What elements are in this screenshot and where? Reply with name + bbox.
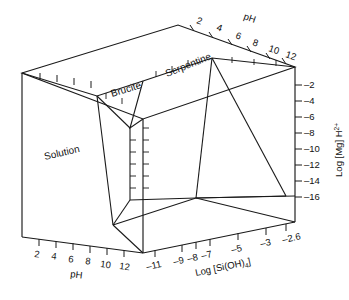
interior-axis-ticks — [130, 128, 149, 188]
silicic-tick-0: –11 — [145, 258, 162, 272]
mg-axis-label-group: Log [Mg] H2+ — [333, 123, 345, 177]
lower-plate-left — [113, 200, 130, 225]
ph-bottom-tick-2: 6 — [68, 253, 75, 265]
mg-tick-4: –10 — [304, 143, 320, 154]
lower-plate-to-bottom-right — [196, 198, 295, 222]
mg-tick-7: –16 — [304, 191, 320, 202]
phase-diagram-figure: 2 4 6 8 10 12 pH –2 –4 –6 –8 –10 –12 –14… — [0, 0, 349, 300]
mg-tick-3: –8 — [304, 127, 315, 138]
serpentine-right-edge — [212, 58, 286, 196]
ph-top-axis-label: pH — [242, 10, 257, 24]
mg-axis-ticks — [295, 85, 302, 197]
ph-bottom-axis-label: pH — [70, 268, 84, 280]
silicic-tick-4: –5 — [230, 242, 243, 255]
silicic-tick-3: –7 — [200, 248, 213, 261]
ph-bottom-tick-0: 2 — [34, 248, 41, 260]
mg-tick-1: –4 — [304, 95, 315, 106]
region-label-brucite: Brucite — [109, 79, 142, 99]
silicic-tick-5: –3 — [259, 236, 272, 249]
lower-plate-right-extension — [196, 196, 295, 198]
ph-bottom-tick-1: 4 — [51, 250, 58, 262]
mg-axis-label-sup: 2+ — [333, 123, 340, 131]
edge-bottom-left — [22, 237, 143, 253]
ph-top-tick-1: 4 — [215, 21, 224, 33]
region-label-serpentine: Serpentine — [164, 50, 213, 78]
ph-bottom-tick-3: 8 — [85, 255, 92, 267]
mg-axis-label-pre: Log [Mg] H — [333, 130, 344, 177]
ph-top-tick-5: 12 — [284, 48, 298, 62]
diagram-canvas: 2 4 6 8 10 12 pH –2 –4 –6 –8 –10 –12 –14… — [0, 0, 349, 300]
edge-bottom-right — [143, 222, 295, 253]
mg-axis-tick-labels: –2 –4 –6 –8 –10 –12 –14 –16 — [304, 79, 320, 202]
ph-bottom-tick-4: 10 — [100, 258, 112, 270]
ph-top-tick-2: 6 — [234, 29, 243, 41]
silicic-tick-2: –8 — [186, 251, 199, 264]
serpentine-left-edge — [196, 58, 212, 198]
svg-text:Log [Mg] H2+: Log [Mg] H2+ — [333, 123, 345, 177]
region-label-solution: Solution — [43, 143, 81, 162]
mg-tick-5: –12 — [304, 159, 320, 170]
mg-tick-0: –2 — [304, 79, 315, 90]
ph-top-tick-3: 8 — [251, 36, 260, 48]
brucite-solution-edge-left — [97, 96, 113, 225]
lower-plate-to-bottom-front — [113, 225, 143, 253]
ph-top-tick-0: 2 — [195, 14, 204, 26]
ph-bottom-tick-5: 12 — [119, 260, 131, 272]
mg-tick-2: –6 — [304, 111, 315, 122]
lower-plate-front — [113, 196, 286, 225]
ph-top-tick-4: 10 — [267, 42, 281, 56]
mg-tick-6: –14 — [304, 175, 320, 186]
silicic-tick-6: –2.6 — [281, 230, 301, 245]
lower-plate-rear — [130, 198, 196, 200]
silicic-tick-1: –9 — [172, 254, 185, 267]
